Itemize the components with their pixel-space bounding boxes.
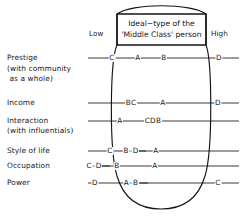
row-label-style-of-life: Style of life <box>7 146 50 155</box>
data-point-style-bd: B–D <box>123 147 139 155</box>
continuum-lines <box>88 58 239 183</box>
data-point-interaction-cdb: CDB <box>144 117 162 125</box>
data-point-occupation-cd: C–D <box>86 162 102 170</box>
data-point-income-a: A <box>160 99 166 107</box>
row-label-income: Income <box>7 98 35 107</box>
data-point-power-ab: A–B <box>123 179 139 187</box>
data-point-prestige-b: B <box>161 54 167 62</box>
pole-label-low: Low <box>89 29 103 38</box>
data-point-income-d: D <box>214 99 221 107</box>
data-point-income-bc: BC <box>125 99 137 107</box>
title-line-1: Ideal−type of the <box>128 19 194 28</box>
row-label-prestige-sub2: as a whole) <box>7 74 53 83</box>
row-label-prestige: Prestige <box>7 53 38 62</box>
data-point-power-c: C <box>215 179 222 187</box>
data-point-prestige-d: D <box>215 54 222 62</box>
data-point-style-c: C <box>107 147 114 155</box>
row-label-occupation: Occupation <box>7 161 50 170</box>
data-point-prestige-a: A <box>135 54 141 62</box>
data-point-interaction-a: A <box>117 117 123 125</box>
figure-canvas: Ideal−type of the 'Middle Class' person … <box>0 0 243 224</box>
data-point-prestige-c: C <box>109 54 116 62</box>
row-label-prestige-sub1: (with community <box>7 64 71 73</box>
title-line-2: 'Middle Class' person <box>121 30 201 39</box>
data-point-occupation-b: B <box>114 162 120 170</box>
data-point-power-d: D <box>91 179 98 187</box>
row-label-interaction-sub1: (with influentials) <box>7 126 73 135</box>
pole-label-high: High <box>211 29 228 38</box>
data-point-occupation-a: A <box>152 162 158 170</box>
row-label-interaction: Interaction <box>7 116 48 125</box>
data-point-style-a: A <box>153 147 159 155</box>
row-label-power: Power <box>7 178 30 187</box>
